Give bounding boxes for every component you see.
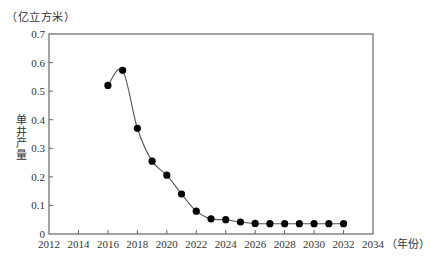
x-tick-label: 2024 bbox=[215, 238, 238, 250]
y-tick-label: 0.6 bbox=[31, 57, 45, 69]
y-axis-title: 单 井 产 量 bbox=[16, 115, 28, 161]
data-point bbox=[340, 220, 347, 227]
x-tick-label: 2020 bbox=[156, 238, 179, 250]
data-point bbox=[296, 220, 303, 227]
x-tick-label: 2030 bbox=[303, 238, 326, 250]
x-tick-label: 2016 bbox=[97, 238, 120, 250]
axis-ticks: 00.10.20.30.40.50.60.7201220142016201820… bbox=[31, 28, 430, 250]
y-tick-label: 0.3 bbox=[31, 142, 45, 154]
data-series bbox=[104, 67, 347, 228]
data-point bbox=[163, 172, 170, 179]
data-point bbox=[281, 220, 288, 227]
series-line bbox=[108, 69, 344, 224]
y-axis-title-char: 量 bbox=[16, 150, 28, 162]
data-point bbox=[266, 220, 273, 227]
y-axis-title-char: 产 bbox=[16, 138, 28, 150]
x-tick-label: 2012 bbox=[38, 238, 60, 250]
x-tick-label: 2022 bbox=[185, 238, 207, 250]
y-tick-label: 0.5 bbox=[31, 85, 45, 97]
data-point bbox=[207, 215, 214, 222]
axes bbox=[49, 34, 373, 234]
y-unit-label: （亿立方米） bbox=[6, 8, 75, 24]
x-tick-label: 2026 bbox=[244, 238, 267, 250]
plot-frame bbox=[49, 34, 373, 234]
x-tick-label: 2034 bbox=[362, 238, 385, 250]
x-tick-label: 2014 bbox=[67, 238, 90, 250]
data-point bbox=[178, 190, 185, 197]
data-point bbox=[310, 220, 317, 227]
y-tick-label: 0.2 bbox=[31, 171, 45, 183]
data-point bbox=[237, 218, 244, 225]
data-point bbox=[104, 82, 111, 89]
x-tick-label: 2032 bbox=[333, 238, 355, 250]
data-point bbox=[119, 67, 126, 74]
x-axis-title: （年份） bbox=[386, 237, 430, 250]
x-tick-label: 2028 bbox=[274, 238, 297, 250]
data-point bbox=[193, 208, 200, 215]
y-axis-title-char: 单 bbox=[16, 115, 28, 127]
data-point bbox=[252, 220, 259, 227]
data-point bbox=[222, 216, 229, 223]
x-tick-label: 2018 bbox=[126, 238, 149, 250]
y-tick-label: 0.7 bbox=[31, 28, 45, 40]
production-chart: 00.10.20.30.40.50.60.7201220142016201820… bbox=[0, 0, 430, 266]
data-point bbox=[148, 158, 155, 165]
data-point bbox=[134, 125, 141, 132]
y-tick-label: 0.4 bbox=[31, 114, 45, 126]
data-point bbox=[325, 220, 332, 227]
y-tick-label: 0.1 bbox=[31, 199, 45, 211]
